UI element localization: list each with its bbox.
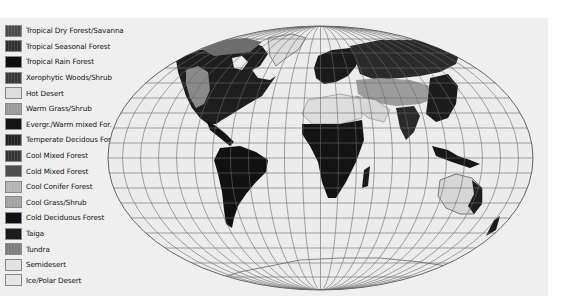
world-vegetation-map (0, 0, 565, 305)
